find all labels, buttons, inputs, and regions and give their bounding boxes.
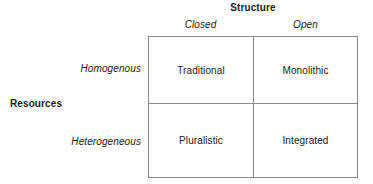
matrix-cell-integrated: Integrated [254,104,357,177]
matrix-cell-traditional: Traditional [149,37,253,103]
row-header-homogenous: Homogenous [11,63,141,74]
matrix-grid: Traditional Monolithic Pluralistic Integ… [148,36,358,178]
row-axis-title: Resources [10,98,62,109]
row-header-heterogeneous: Heterogeneous [11,136,141,147]
column-header-open: Open [253,19,358,30]
column-axis-title: Structure [148,2,358,13]
matrix-cell-pluralistic: Pluralistic [149,104,253,177]
two-by-two-matrix-figure: Structure Closed Open Resources Homogeno… [0,0,373,184]
matrix-cell-monolithic: Monolithic [254,37,357,103]
column-header-closed: Closed [148,19,253,30]
